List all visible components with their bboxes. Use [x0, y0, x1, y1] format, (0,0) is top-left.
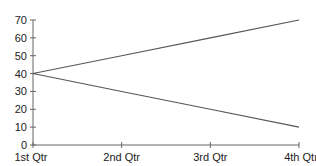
y-tick-label: 60	[15, 32, 27, 44]
x-axis: 1st Qtr2nd Qtr3rd Qtr4th Qtr	[14, 142, 316, 163]
x-tick-label: 2nd Qtr	[103, 151, 140, 163]
y-tick-label: 70	[15, 14, 27, 26]
x-tick-label: 4th Qtr	[284, 151, 316, 163]
x-tick-label: 3rd Qtr	[193, 151, 228, 163]
series-line-2	[33, 74, 299, 128]
y-tick-label: 50	[15, 50, 27, 62]
line-chart: 010203040506070 1st Qtr2nd Qtr3rd Qtr4th…	[0, 0, 316, 166]
y-axis: 010203040506070	[15, 14, 36, 151]
x-tick-label: 1st Qtr	[14, 151, 47, 163]
y-tick-label: 30	[15, 85, 27, 97]
chart-canvas: 010203040506070 1st Qtr2nd Qtr3rd Qtr4th…	[0, 0, 316, 166]
series-lines	[33, 20, 299, 127]
series-line-1	[33, 20, 299, 74]
y-tick-label: 20	[15, 103, 27, 115]
y-tick-label: 40	[15, 68, 27, 80]
y-tick-label: 0	[21, 139, 27, 151]
y-tick-label: 10	[15, 121, 27, 133]
